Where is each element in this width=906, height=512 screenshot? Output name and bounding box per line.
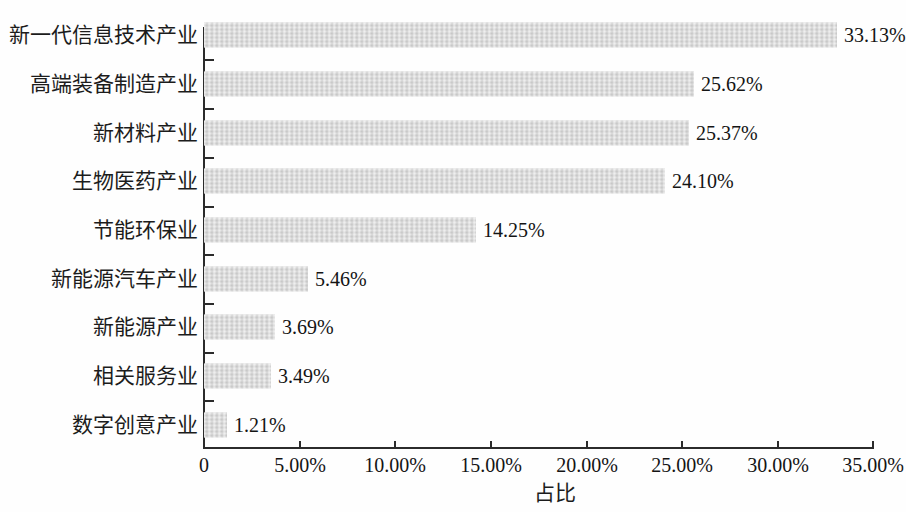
x-axis-tick xyxy=(394,441,396,448)
category-label: 高端装备制造产业 xyxy=(0,74,198,95)
category-label: 新能源汽车产业 xyxy=(0,269,198,290)
x-axis-tick xyxy=(203,441,205,448)
x-axis-tick xyxy=(586,441,588,448)
bar-value-label: 33.13% xyxy=(844,25,906,45)
bar-texture xyxy=(204,23,837,48)
bar-texture xyxy=(204,218,476,243)
x-axis-tick xyxy=(681,441,683,448)
category-label: 新材料产业 xyxy=(0,123,198,144)
x-axis-tick-label: 30.00% xyxy=(747,454,809,476)
bar-texture xyxy=(204,364,271,389)
x-axis-title: 占比 xyxy=(0,482,906,505)
bar xyxy=(204,218,476,243)
x-axis-tick-label: 10.00% xyxy=(364,454,426,476)
bar-value-label: 25.62% xyxy=(701,74,763,94)
bar-chart: 新一代信息技术产业 高端装备制造产业 新材料产业 生物医药产业 节能环保业 新能… xyxy=(0,0,906,512)
bar xyxy=(204,23,837,48)
category-label: 生物医药产业 xyxy=(0,171,198,192)
bar-value-label: 1.21% xyxy=(234,415,286,435)
bar xyxy=(204,315,275,340)
bar-value-label: 5.46% xyxy=(315,269,367,289)
x-axis-tick-label: 0 xyxy=(199,454,209,476)
bar xyxy=(204,267,308,292)
x-axis-tick-label: 35.00% xyxy=(842,454,904,476)
bar-texture xyxy=(204,413,227,438)
bar-value-label: 24.10% xyxy=(672,171,734,191)
x-axis-tick xyxy=(872,441,874,448)
x-axis-tick-label: 20.00% xyxy=(556,454,618,476)
x-axis-tick xyxy=(490,441,492,448)
bar xyxy=(204,169,665,194)
category-label: 节能环保业 xyxy=(0,220,198,241)
bar xyxy=(204,413,227,438)
x-axis-tick-label: 15.00% xyxy=(460,454,522,476)
x-axis-tick xyxy=(299,441,301,448)
plot-area: 33.13% 25.62% 25.37% 24.10% 14.25% 5.46%… xyxy=(204,27,873,448)
x-axis-title-text: 占比 xyxy=(534,481,576,505)
bar-texture xyxy=(204,315,275,340)
category-label: 新能源产业 xyxy=(0,317,198,338)
category-label: 数字创意产业 xyxy=(0,415,198,436)
x-axis-tick xyxy=(777,441,779,448)
x-axis-tick-label: 25.00% xyxy=(651,454,713,476)
bar-texture xyxy=(204,267,308,292)
category-label: 相关服务业 xyxy=(0,366,198,387)
bar-value-label: 3.69% xyxy=(282,317,334,337)
bar-texture xyxy=(204,72,694,97)
bar-value-label: 3.49% xyxy=(278,366,330,386)
bar-texture xyxy=(204,169,665,194)
bar-value-label: 14.25% xyxy=(483,220,545,240)
category-label: 新一代信息技术产业 xyxy=(0,25,198,46)
bar-value-label: 25.37% xyxy=(696,123,758,143)
bar-texture xyxy=(204,121,689,146)
bar xyxy=(204,121,689,146)
bar xyxy=(204,72,694,97)
bar xyxy=(204,364,271,389)
x-axis-tick-label: 5.00% xyxy=(274,454,326,476)
